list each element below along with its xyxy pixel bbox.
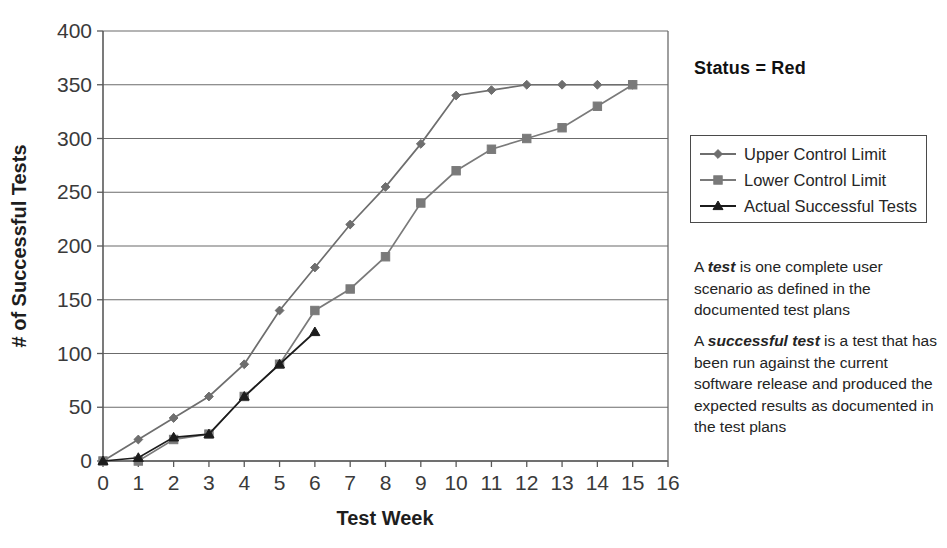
x-tick-label: 7 bbox=[344, 471, 356, 494]
x-tick-label: 14 bbox=[586, 471, 610, 494]
x-axis-tick-labels: 012345678910111213141516 bbox=[97, 471, 680, 494]
note-emphasis: successful test bbox=[708, 332, 820, 349]
data-point-marker bbox=[134, 435, 143, 444]
x-tick-label: 8 bbox=[380, 471, 392, 494]
gridlines bbox=[103, 31, 668, 461]
definition-note-successful-test: A successful test is a test that has bee… bbox=[694, 330, 944, 438]
x-tick-label: 16 bbox=[656, 471, 679, 494]
data-point-marker bbox=[417, 199, 425, 207]
data-point-marker bbox=[522, 80, 531, 89]
legend-square-icon bbox=[700, 172, 736, 188]
y-tick-label: 150 bbox=[57, 288, 92, 311]
x-tick-label: 10 bbox=[444, 471, 467, 494]
x-tick-label: 9 bbox=[415, 471, 427, 494]
legend-item-label: Lower Control Limit bbox=[744, 171, 886, 190]
chart-page: 050100150200250300350400 012345678910111… bbox=[0, 0, 947, 548]
y-tick-label: 350 bbox=[57, 73, 92, 96]
x-tick-label: 15 bbox=[621, 471, 644, 494]
y-tick-label: 200 bbox=[57, 234, 92, 257]
y-tick-label: 100 bbox=[57, 342, 92, 365]
data-point-marker bbox=[593, 80, 602, 89]
y-tick-label: 0 bbox=[80, 449, 92, 472]
x-tick-label: 5 bbox=[274, 471, 286, 494]
data-point-marker bbox=[593, 102, 601, 110]
data-point-marker bbox=[714, 176, 722, 184]
data-point-marker bbox=[311, 306, 319, 314]
y-tick-label: 50 bbox=[69, 395, 92, 418]
status-badge: Status = Red bbox=[694, 58, 806, 79]
legend-item-upper-control-limit[interactable]: Upper Control Limit bbox=[691, 141, 926, 167]
chart-legend: Upper Control LimitLower Control LimitAc… bbox=[690, 135, 927, 223]
data-point-marker bbox=[558, 124, 566, 132]
note-lead: A bbox=[694, 332, 708, 349]
data-point-marker bbox=[346, 285, 354, 293]
y-tick-label: 250 bbox=[57, 180, 92, 203]
x-tick-label: 4 bbox=[238, 471, 250, 494]
x-tick-label: 3 bbox=[203, 471, 215, 494]
chart-canvas: 050100150200250300350400 012345678910111… bbox=[0, 0, 690, 548]
legend-item-lower-control-limit[interactable]: Lower Control Limit bbox=[691, 167, 926, 193]
data-point-marker bbox=[310, 327, 320, 336]
x-tick-label: 1 bbox=[132, 471, 144, 494]
x-tick-label: 11 bbox=[481, 471, 503, 494]
x-axis-title: Test Week bbox=[336, 507, 434, 529]
x-tick-label: 2 bbox=[168, 471, 180, 494]
data-point-marker bbox=[169, 414, 178, 423]
legend-triangle-icon bbox=[700, 198, 736, 214]
data-point-marker bbox=[452, 167, 460, 175]
legend-item-label: Actual Successful Tests bbox=[744, 197, 917, 216]
x-tick-label: 6 bbox=[309, 471, 321, 494]
series-line bbox=[103, 85, 633, 461]
data-point-marker bbox=[487, 86, 496, 95]
line-chart: 050100150200250300350400 012345678910111… bbox=[0, 0, 690, 548]
data-point-marker bbox=[487, 145, 495, 153]
data-point-marker bbox=[713, 201, 723, 210]
side-panel: Status = Red Upper Control LimitLower Co… bbox=[690, 0, 947, 548]
data-point-marker bbox=[381, 253, 389, 261]
y-tick-label: 400 bbox=[57, 19, 92, 42]
x-tick-label: 12 bbox=[515, 471, 538, 494]
data-point-marker bbox=[523, 134, 531, 142]
data-point-marker bbox=[714, 150, 723, 159]
legend-diamond-icon bbox=[700, 146, 736, 162]
legend-item-actual-successful-tests[interactable]: Actual Successful Tests bbox=[691, 193, 926, 219]
y-axis-tick-labels: 050100150200250300350400 bbox=[57, 19, 103, 472]
note-emphasis: test bbox=[708, 258, 736, 275]
legend-item-label: Upper Control Limit bbox=[744, 145, 886, 164]
data-point-marker bbox=[628, 81, 636, 89]
definition-note-test: A test is one complete user scenario as … bbox=[694, 256, 944, 321]
data-point-marker bbox=[558, 80, 567, 89]
legend-rows: Upper Control LimitLower Control LimitAc… bbox=[691, 136, 926, 219]
y-tick-label: 300 bbox=[57, 127, 92, 150]
x-tick-label: 13 bbox=[550, 471, 573, 494]
x-axis-ticks bbox=[103, 461, 668, 467]
x-tick-label: 0 bbox=[97, 471, 109, 494]
y-axis-title: # of Successful Tests bbox=[8, 144, 30, 347]
note-lead: A bbox=[694, 258, 708, 275]
